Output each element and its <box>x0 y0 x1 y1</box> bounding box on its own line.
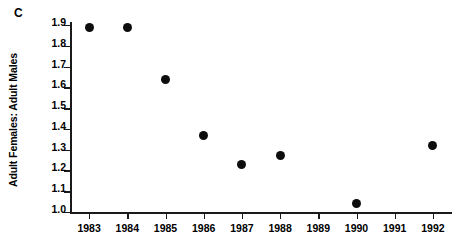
y-tick-label: 1.6 <box>51 79 66 90</box>
y-tick-label: 1.5 <box>51 100 66 111</box>
data-point <box>199 131 208 140</box>
y-axis-line <box>70 22 72 212</box>
x-tick-mark <box>395 213 396 219</box>
x-tick-label: 1987 <box>230 223 253 234</box>
x-tick-label: 1990 <box>345 223 368 234</box>
x-tick-label: 1991 <box>383 223 406 234</box>
figure-panel-c: C Adult Females: Adult Males 1.91.81.71.… <box>0 0 460 249</box>
data-point <box>123 23 132 32</box>
y-tick-label: 1.3 <box>51 142 66 153</box>
x-tick-mark <box>89 213 90 219</box>
x-tick-label: 1985 <box>154 223 177 234</box>
y-tick-label: 1.4 <box>51 121 66 132</box>
x-tick-mark <box>357 213 358 219</box>
y-tick-label: 1.9 <box>51 17 66 28</box>
x-tick-mark <box>280 213 281 219</box>
plot-area: 1.91.81.71.61.51.41.31.21.11.0 198319841… <box>70 25 452 212</box>
x-tick-mark <box>204 213 205 219</box>
x-tick-label: 1984 <box>116 223 139 234</box>
y-tick-label: 1.7 <box>51 59 66 70</box>
x-tick-label: 1986 <box>192 223 215 234</box>
x-tick-label: 1992 <box>421 223 444 234</box>
y-tick-label: 1.2 <box>51 162 66 173</box>
data-point <box>428 141 437 150</box>
data-point <box>352 199 361 208</box>
x-tick-mark <box>127 213 128 219</box>
data-point <box>161 75 170 84</box>
x-tick-mark <box>242 213 243 219</box>
x-tick-mark <box>166 213 167 219</box>
y-tick-label: 1.8 <box>51 38 66 49</box>
x-tick-label: 1989 <box>307 223 330 234</box>
x-tick-label: 1983 <box>77 223 100 234</box>
data-point <box>85 23 94 32</box>
y-axis-title-container: Adult Females: Adult Males <box>0 22 26 218</box>
y-tick-label: 1.1 <box>51 183 66 194</box>
x-tick-label: 1988 <box>268 223 291 234</box>
data-point <box>237 160 246 169</box>
x-tick-mark <box>433 213 434 219</box>
y-tick-label: 1.0 <box>51 204 66 215</box>
y-axis-title: Adult Females: Adult Males <box>7 53 19 187</box>
panel-label: C <box>14 7 23 19</box>
x-tick-mark <box>318 213 319 219</box>
data-point <box>276 151 285 160</box>
